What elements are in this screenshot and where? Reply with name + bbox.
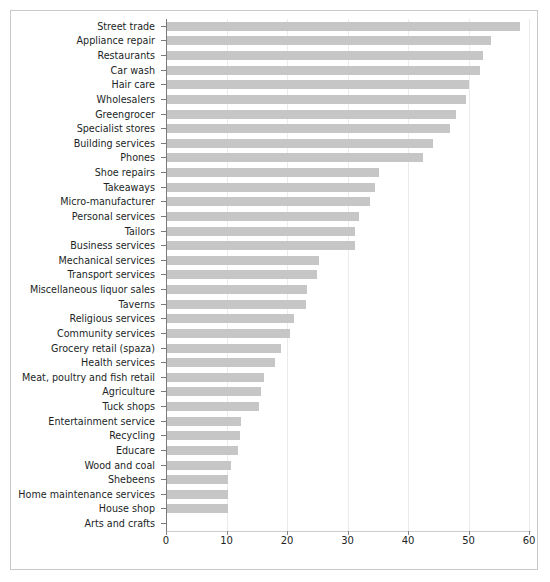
category-label: House shop bbox=[0, 503, 155, 514]
category-label: Car wash bbox=[0, 65, 155, 76]
y-axis-tick bbox=[161, 289, 166, 290]
y-axis-tick bbox=[161, 450, 166, 451]
bar-row: House shop bbox=[11, 502, 537, 517]
bar-row: Religious services bbox=[11, 312, 537, 327]
bar bbox=[167, 168, 379, 177]
bar-row: Recycling bbox=[11, 429, 537, 444]
category-label: Arts and crafts bbox=[0, 518, 155, 529]
bar-row: Car wash bbox=[11, 63, 537, 78]
bar-row: Hair care bbox=[11, 78, 537, 93]
category-label: Mechanical services bbox=[0, 255, 155, 266]
category-label: Specialist stores bbox=[0, 123, 155, 134]
bar-rows: Street tradeAppliance repairRestaurantsC… bbox=[11, 19, 537, 531]
bar bbox=[167, 66, 480, 75]
bar-row: Shoe repairs bbox=[11, 165, 537, 180]
bar bbox=[167, 344, 281, 353]
bar-row: Specialist stores bbox=[11, 121, 537, 136]
bar-row: Taverns bbox=[11, 297, 537, 312]
bar-row: Community services bbox=[11, 326, 537, 341]
bar bbox=[167, 51, 483, 60]
bar-row: Agriculture bbox=[11, 385, 537, 400]
bar-row: Health services bbox=[11, 355, 537, 370]
bar bbox=[167, 285, 307, 294]
y-axis-tick bbox=[161, 216, 166, 217]
bar bbox=[167, 139, 433, 148]
y-axis-tick bbox=[161, 494, 166, 495]
bar-row: Business services bbox=[11, 238, 537, 253]
x-axis-tick-label: 10 bbox=[220, 535, 233, 546]
bar-row: Micro-manufacturer bbox=[11, 195, 537, 210]
bar-row: Takeaways bbox=[11, 180, 537, 195]
bar bbox=[167, 431, 240, 440]
bar bbox=[167, 446, 238, 455]
bar bbox=[167, 461, 231, 470]
category-label: Phones bbox=[0, 152, 155, 163]
bar bbox=[167, 314, 294, 323]
category-label: Hair care bbox=[0, 79, 155, 90]
category-label: Miscellaneous liquor sales bbox=[0, 284, 155, 295]
bar-row: Restaurants bbox=[11, 48, 537, 63]
y-axis-tick bbox=[161, 274, 166, 275]
x-axis-tick-label: 30 bbox=[341, 535, 354, 546]
y-axis-tick bbox=[161, 391, 166, 392]
y-axis-tick bbox=[161, 362, 166, 363]
y-axis-tick bbox=[161, 187, 166, 188]
y-axis-tick bbox=[161, 245, 166, 246]
bar-row: Entertainment service bbox=[11, 414, 537, 429]
category-label: Shoe repairs bbox=[0, 167, 155, 178]
bar-row: Mechanical services bbox=[11, 253, 537, 268]
x-axis-tick-label: 0 bbox=[163, 535, 169, 546]
y-axis-tick bbox=[161, 377, 166, 378]
bar-row: Phones bbox=[11, 151, 537, 166]
x-axis-tick-label: 20 bbox=[281, 535, 294, 546]
bar bbox=[167, 256, 319, 265]
x-axis-tick-label: 40 bbox=[402, 535, 415, 546]
category-label: Entertainment service bbox=[0, 416, 155, 427]
category-label: Greengrocer bbox=[0, 109, 155, 120]
bar-row: Shebeens bbox=[11, 472, 537, 487]
bar bbox=[167, 197, 370, 206]
y-axis-tick bbox=[161, 333, 166, 334]
bar bbox=[167, 490, 228, 499]
y-axis-tick bbox=[161, 70, 166, 71]
category-label: Wholesalers bbox=[0, 94, 155, 105]
y-axis-tick bbox=[161, 84, 166, 85]
category-label: Meat, poultry and fish retail bbox=[0, 372, 155, 383]
bar bbox=[167, 402, 259, 411]
y-axis-tick bbox=[161, 318, 166, 319]
y-axis-tick bbox=[161, 157, 166, 158]
x-axis-tick-label: 50 bbox=[462, 535, 475, 546]
bar bbox=[167, 153, 423, 162]
bar-row: Miscellaneous liquor sales bbox=[11, 282, 537, 297]
x-axis-tick-labels: 0102030405060 bbox=[166, 535, 529, 555]
bar bbox=[167, 475, 228, 484]
bar-row: Building services bbox=[11, 136, 537, 151]
bar-row: Greengrocer bbox=[11, 107, 537, 122]
y-axis-tick bbox=[161, 348, 166, 349]
category-label: Business services bbox=[0, 240, 155, 251]
bar bbox=[167, 183, 375, 192]
category-label: Educare bbox=[0, 445, 155, 456]
bar bbox=[167, 22, 520, 31]
bar bbox=[167, 270, 317, 279]
y-axis-tick bbox=[161, 128, 166, 129]
bar-row: Tailors bbox=[11, 224, 537, 239]
y-axis-tick bbox=[161, 55, 166, 56]
bar-row: Grocery retail (spaza) bbox=[11, 341, 537, 356]
bar-row: Arts and crafts bbox=[11, 516, 537, 531]
category-label: Agriculture bbox=[0, 386, 155, 397]
y-axis-tick bbox=[161, 465, 166, 466]
y-axis-tick bbox=[161, 435, 166, 436]
x-axis-tick-label: 60 bbox=[523, 535, 536, 546]
chart-frame: Street tradeAppliance repairRestaurantsC… bbox=[10, 10, 538, 570]
category-label: Transport services bbox=[0, 269, 155, 280]
y-axis-tick bbox=[161, 479, 166, 480]
category-label: Home maintenance services bbox=[0, 489, 155, 500]
y-axis-tick bbox=[161, 231, 166, 232]
bar bbox=[167, 241, 355, 250]
bar bbox=[167, 36, 491, 45]
category-label: Restaurants bbox=[0, 50, 155, 61]
y-axis-tick bbox=[161, 523, 166, 524]
bar-row: Street trade bbox=[11, 19, 537, 34]
bar bbox=[167, 358, 275, 367]
